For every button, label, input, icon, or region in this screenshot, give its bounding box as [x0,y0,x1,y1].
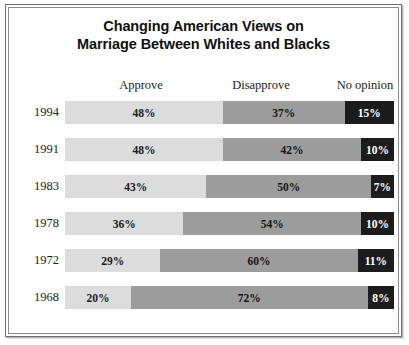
table-row: 1983 43% 50% 7% [9,175,398,198]
row-year-label: 1978 [23,212,59,235]
stacked-bar: 29% 60% 11% [65,249,394,272]
bar-segment-approve: 48% [65,138,223,161]
chart-card: Changing American Views on Marriage Betw… [5,4,402,337]
bar-segment-approve: 48% [65,101,223,124]
row-year-label: 1968 [23,286,59,309]
table-row: 1972 29% 60% 11% [9,249,398,272]
table-row: 1968 20% 72% 8% [9,286,398,309]
row-year-label: 1972 [23,249,59,272]
bar-segment-approve: 43% [65,175,206,198]
bar-segment-disapprove: 60% [160,249,357,272]
stacked-bar: 48% 42% 10% [65,138,394,161]
table-row: 1991 48% 42% 10% [9,138,398,161]
stacked-bar: 48% 37% 15% [65,101,394,124]
bar-segment-no-opinion: 15% [345,101,394,124]
chart-inner-frame: Changing American Views on Marriage Betw… [8,7,399,334]
bar-segment-no-opinion: 10% [361,138,394,161]
table-row: 1994 48% 37% 15% [9,101,398,124]
row-year-label: 1994 [23,101,59,124]
bar-segment-approve: 36% [65,212,183,235]
bar-segment-no-opinion: 8% [368,286,394,309]
bar-segment-no-opinion: 11% [358,249,394,272]
table-row: 1978 36% 54% 10% [9,212,398,235]
bar-segment-disapprove: 50% [206,175,371,198]
row-year-label: 1983 [23,175,59,198]
stacked-bar: 20% 72% 8% [65,286,394,309]
bar-segment-disapprove: 54% [183,212,361,235]
row-year-label: 1991 [23,138,59,161]
bar-segment-disapprove: 72% [131,286,368,309]
stacked-bar: 43% 50% 7% [65,175,394,198]
bar-segment-disapprove: 37% [223,101,345,124]
bar-segment-no-opinion: 10% [361,212,394,235]
bar-segment-disapprove: 42% [223,138,361,161]
bar-segment-no-opinion: 7% [371,175,394,198]
bar-segment-approve: 29% [65,249,160,272]
bar-segment-approve: 20% [65,286,131,309]
stacked-bar: 36% 54% 10% [65,212,394,235]
chart-rows: 1994 48% 37% 15% 1991 48% 42% 10% 1983 [9,8,398,333]
